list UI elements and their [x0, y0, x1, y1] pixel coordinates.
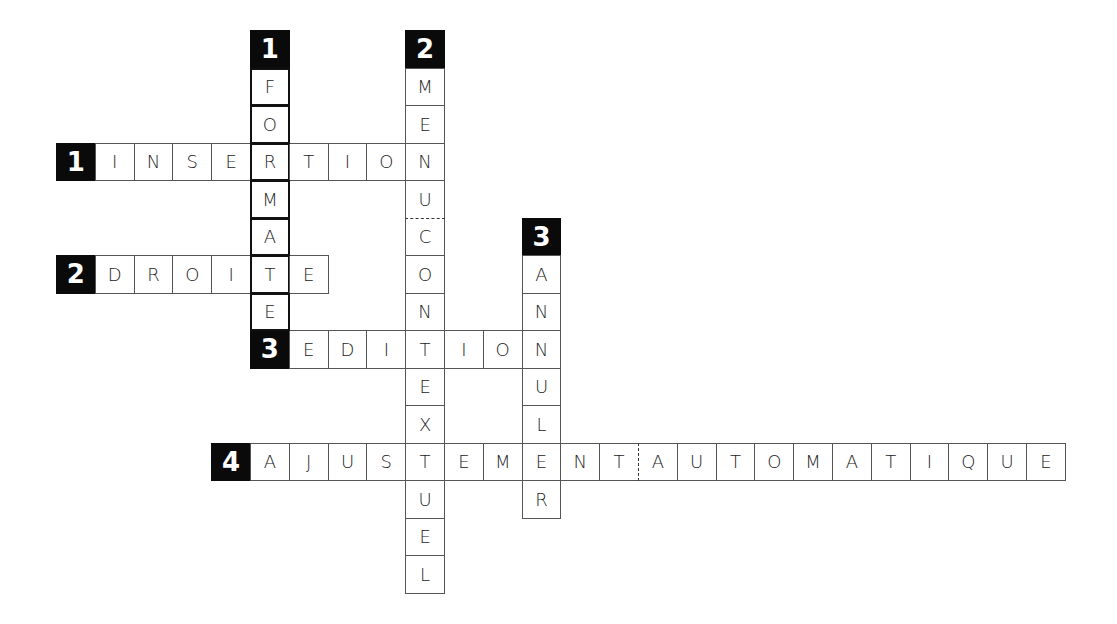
- clue-number-across-1: 1: [56, 143, 96, 182]
- clue-number-down-1: 1: [250, 30, 290, 69]
- letter-cell[interactable]: L: [405, 555, 445, 594]
- letter-cell[interactable]: I: [328, 143, 368, 182]
- letter-cell[interactable]: T: [250, 255, 290, 294]
- letter-cell[interactable]: E: [250, 293, 290, 332]
- letter-cell[interactable]: A: [638, 443, 678, 482]
- letter-cell[interactable]: E: [405, 518, 445, 557]
- letter-cell[interactable]: S: [366, 443, 406, 482]
- letter-cell[interactable]: T: [405, 443, 445, 482]
- letter-cell[interactable]: T: [871, 443, 911, 482]
- clue-number-across-3: 3: [250, 330, 290, 369]
- letter-cell[interactable]: R: [250, 143, 290, 182]
- letter-cell[interactable]: U: [522, 368, 562, 407]
- letter-cell[interactable]: T: [405, 330, 445, 369]
- letter-cell[interactable]: T: [289, 143, 329, 182]
- letter-cell[interactable]: A: [250, 443, 290, 482]
- letter-cell[interactable]: R: [522, 480, 562, 519]
- letter-cell[interactable]: O: [405, 255, 445, 294]
- letter-cell[interactable]: U: [328, 443, 368, 482]
- letter-cell[interactable]: E: [1026, 443, 1066, 482]
- letter-cell[interactable]: E: [289, 330, 329, 369]
- letter-cell[interactable]: I: [211, 255, 251, 294]
- letter-cell[interactable]: E: [405, 368, 445, 407]
- clue-number-down-3: 3: [522, 218, 562, 257]
- letter-cell[interactable]: M: [250, 180, 290, 219]
- letter-cell[interactable]: J: [289, 443, 329, 482]
- letter-cell[interactable]: N: [405, 143, 445, 182]
- letter-cell[interactable]: R: [134, 255, 174, 294]
- letter-cell[interactable]: S: [172, 143, 212, 182]
- letter-cell[interactable]: U: [987, 443, 1027, 482]
- letter-cell[interactable]: A: [832, 443, 872, 482]
- letter-cell[interactable]: C: [405, 218, 445, 257]
- letter-cell[interactable]: E: [405, 105, 445, 144]
- clue-number-down-2: 2: [405, 30, 445, 69]
- letter-cell[interactable]: N: [134, 143, 174, 182]
- letter-cell[interactable]: E: [522, 443, 562, 482]
- letter-cell[interactable]: I: [95, 143, 135, 182]
- clue-number-across-2: 2: [56, 255, 96, 294]
- letter-cell[interactable]: F: [250, 68, 290, 107]
- letter-cell[interactable]: A: [522, 255, 562, 294]
- letter-cell[interactable]: I: [366, 330, 406, 369]
- letter-cell[interactable]: O: [250, 105, 290, 144]
- letter-cell[interactable]: A: [250, 218, 290, 257]
- letter-cell[interactable]: O: [366, 143, 406, 182]
- letter-cell[interactable]: T: [599, 443, 639, 482]
- letter-cell[interactable]: I: [444, 330, 484, 369]
- letter-cell[interactable]: E: [211, 143, 251, 182]
- letter-cell[interactable]: D: [95, 255, 135, 294]
- letter-cell[interactable]: E: [289, 255, 329, 294]
- letter-cell[interactable]: M: [793, 443, 833, 482]
- letter-cell[interactable]: T: [716, 443, 756, 482]
- letter-cell[interactable]: N: [405, 293, 445, 332]
- letter-cell[interactable]: Q: [948, 443, 988, 482]
- letter-cell[interactable]: N: [522, 330, 562, 369]
- letter-cell[interactable]: O: [172, 255, 212, 294]
- crossword-grid: 1231INSERTION2DROITE3EDITION4AJUSTEMENTA…: [0, 0, 1117, 624]
- letter-cell[interactable]: L: [522, 405, 562, 444]
- clue-number-across-4: 4: [211, 443, 251, 482]
- letter-cell[interactable]: E: [444, 443, 484, 482]
- letter-cell[interactable]: I: [910, 443, 950, 482]
- letter-cell[interactable]: U: [677, 443, 717, 482]
- letter-cell[interactable]: O: [483, 330, 523, 369]
- letter-cell[interactable]: N: [522, 293, 562, 332]
- letter-cell[interactable]: U: [405, 180, 445, 219]
- letter-cell[interactable]: M: [405, 68, 445, 107]
- letter-cell[interactable]: N: [560, 443, 600, 482]
- letter-cell[interactable]: X: [405, 405, 445, 444]
- letter-cell[interactable]: U: [405, 480, 445, 519]
- letter-cell[interactable]: M: [483, 443, 523, 482]
- letter-cell[interactable]: O: [754, 443, 794, 482]
- letter-cell[interactable]: D: [328, 330, 368, 369]
